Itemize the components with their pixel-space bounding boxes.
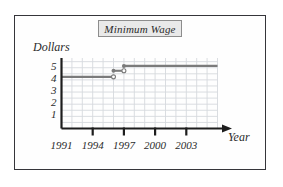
grid-horizontal-lines [62, 62, 218, 123]
y-tick-label: 2 [43, 96, 57, 108]
x-tick-label: 2000 [138, 139, 172, 151]
chart-title-box: Minimum Wage [98, 20, 182, 37]
grid-vertical-lines [62, 58, 218, 129]
x-tick-label: 1997 [107, 139, 141, 151]
x-tick-label: 2003 [169, 139, 203, 151]
x-axis-label: Year [228, 130, 250, 145]
y-tick-label: 1 [43, 108, 57, 120]
step-series [62, 64, 218, 79]
y-axis-label: Dollars [33, 40, 70, 55]
x-tick-label: 1991 [45, 139, 79, 151]
x-tick-label: 1994 [76, 139, 110, 151]
chart-title: Minimum Wage [104, 23, 175, 35]
y-tick-label: 3 [43, 84, 57, 96]
axis-lines [62, 58, 233, 132]
y-tick-label: 4 [43, 72, 57, 84]
y-tick-label: 5 [43, 60, 57, 72]
